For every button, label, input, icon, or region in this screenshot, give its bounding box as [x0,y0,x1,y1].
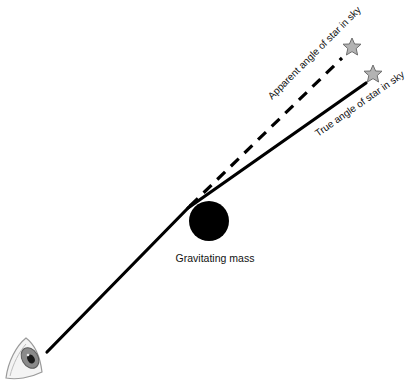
true-star-icon [364,65,382,82]
gravitating-mass-label: Gravitating mass [176,252,255,264]
true-angle-label: True angle of star in sky [313,69,406,139]
gravitating-mass [189,201,229,241]
eye-icon [6,338,42,379]
lensing-diagram: Apparent angle of star in sky True angle… [0,0,420,386]
light-path-observer-segment [47,206,190,352]
apparent-star-icon [343,38,361,55]
true-angle-line [188,83,366,208]
